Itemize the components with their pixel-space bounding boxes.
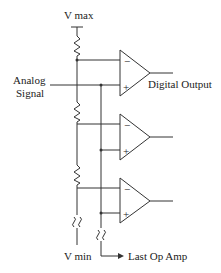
last-op-amp-label: Last Op Amp	[128, 250, 188, 262]
adc-diagram: V max Analog Signal Digital Output V min…	[0, 0, 221, 273]
opamp3-minus: −	[124, 183, 130, 195]
opamp3-plus: +	[123, 208, 129, 220]
opamp1-minus: −	[124, 55, 130, 67]
analog-label-line2: Signal	[16, 87, 44, 99]
opamp1-plus: +	[123, 81, 129, 93]
digital-output-label: Digital Output	[148, 78, 212, 90]
vmax-label: V max	[64, 9, 94, 21]
analog-label-line1: Analog	[13, 74, 46, 86]
wires	[50, 27, 173, 259]
opamp2-minus: −	[124, 119, 130, 131]
opamp2-plus: +	[123, 145, 129, 157]
vmin-label: V min	[64, 250, 92, 262]
